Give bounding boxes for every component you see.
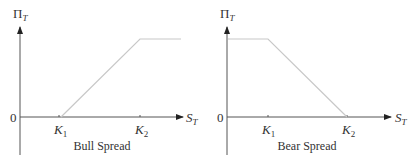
y-axis-label: ΠT bbox=[13, 7, 27, 23]
origin-label: 0 bbox=[10, 111, 17, 124]
x-axis-label: ST bbox=[186, 111, 198, 127]
origin-label: 0 bbox=[217, 111, 224, 124]
bear-spread-chart bbox=[227, 27, 391, 155]
k1-label: K1 bbox=[54, 123, 67, 139]
chart-caption: Bear Spread bbox=[278, 139, 337, 154]
payoff-line bbox=[228, 39, 347, 117]
x-axis-label: ST bbox=[395, 111, 407, 127]
k2-label: K2 bbox=[135, 123, 148, 139]
chart-canvas bbox=[0, 0, 415, 164]
k1-label: K1 bbox=[262, 123, 275, 139]
k2-label: K2 bbox=[342, 123, 355, 139]
y-axis-label: ΠT bbox=[220, 7, 234, 23]
payoff-line bbox=[61, 39, 181, 117]
bull-spread-chart bbox=[20, 27, 183, 155]
chart-caption: Bull Spread bbox=[74, 139, 131, 154]
